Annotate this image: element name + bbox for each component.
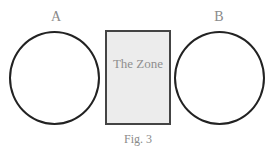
circle-a <box>9 31 100 125</box>
circle-b <box>174 31 265 125</box>
zone-rectangle: The Zone <box>105 30 171 125</box>
zone-label: The Zone <box>107 56 169 72</box>
circle-b-label: B <box>209 10 229 24</box>
circle-a-label: A <box>46 10 66 24</box>
figure-diagram: A B The Zone Fig. 3 <box>0 0 272 153</box>
figure-caption: Fig. 3 <box>113 133 163 145</box>
